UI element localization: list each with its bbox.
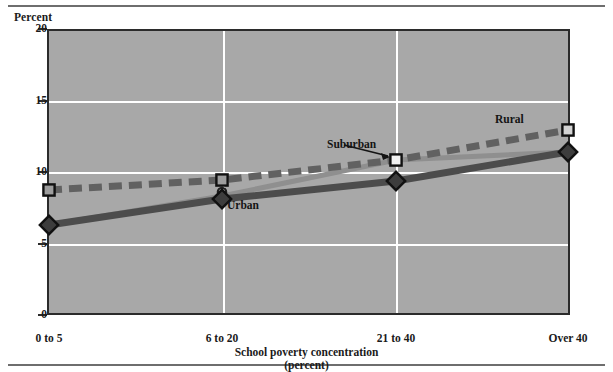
y-tick-label-0: 0 [17, 309, 47, 321]
marker-rural-square-2 [390, 154, 401, 165]
series-label-suburban: Suburban [327, 138, 376, 150]
series-label-urban: Urban [227, 199, 259, 211]
x-axis-title: School poverty concentration (percent) [0, 346, 613, 372]
x-tick-label-over-40: Over 40 [548, 332, 587, 344]
series-overlay [47, 29, 570, 315]
x-tick-label-0-to-5: 0 to 5 [36, 332, 63, 344]
marker-urban-diamond-3 [559, 143, 577, 161]
x-axis-title-line1: School poverty concentration [235, 346, 379, 358]
y-axis-ticks: 20 15 10 5 0 [0, 0, 47, 372]
marker-rural-square-0 [43, 184, 54, 195]
y-tick-label-20: 20 [17, 23, 47, 35]
series-line-urban [49, 152, 568, 225]
marker-rural-square-1 [216, 174, 227, 185]
series-line-rural [49, 130, 568, 190]
x-tick-label-6-to-20: 6 to 20 [206, 332, 239, 344]
x-tick-label-21-to-40: 21 to 40 [377, 332, 415, 344]
series-label-rural: Rural [495, 113, 524, 125]
top-divider-rule [8, 5, 605, 7]
marker-group-rural [43, 124, 573, 195]
y-tick-label-5: 5 [17, 238, 47, 250]
y-tick-label-15: 15 [17, 95, 47, 107]
y-tick-label-10: 10 [17, 166, 47, 178]
marker-rural-square-3 [562, 124, 573, 135]
chart-figure: Percent 20 15 10 5 0 [0, 0, 613, 372]
marker-urban-diamond-2 [387, 172, 405, 190]
x-axis-title-line2: (percent) [0, 359, 613, 372]
